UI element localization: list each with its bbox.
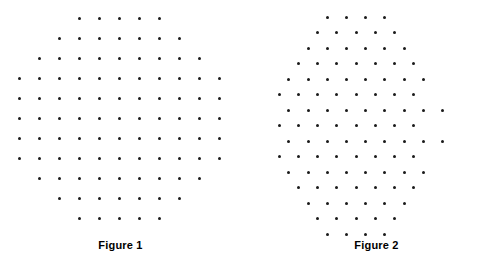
lattice-dot [158,57,161,60]
lattice-dot [412,155,415,158]
lattice-dot [307,47,310,50]
lattice-dot [218,97,221,100]
lattice-dot [58,157,61,160]
lattice-dot [58,197,61,200]
lattice-dot [364,16,367,19]
lattice-dot [393,155,396,158]
lattice-dot [78,197,81,200]
lattice-dot [412,93,415,96]
lattice-dot [316,124,319,127]
lattice-dot [326,140,329,143]
lattice-dot [422,78,425,81]
lattice-dot [441,109,444,112]
lattice-dot [316,155,319,158]
lattice-dot [158,97,161,100]
lattice-dot [326,233,329,236]
lattice-dot [138,37,141,40]
lattice-dot [412,186,415,189]
lattice-dot [118,217,121,220]
lattice-dot [58,177,61,180]
lattice-dot [158,157,161,160]
lattice-dot [138,117,141,120]
lattice-dot [78,77,81,80]
lattice-dot [403,78,406,81]
lattice-dot [138,77,141,80]
lattice-dot [98,177,101,180]
lattice-dot [98,37,101,40]
lattice-dot [364,140,367,143]
lattice-dot [403,140,406,143]
lattice-dot [364,202,367,205]
lattice-dot [326,171,329,174]
lattice-dot [307,171,310,174]
lattice-dot [58,37,61,40]
lattice-dot [98,17,101,20]
lattice-dot [98,217,101,220]
lattice-dot [355,186,358,189]
lattice-dot [98,117,101,120]
lattice-dot [118,117,121,120]
lattice-dot [58,57,61,60]
lattice-dot [198,97,201,100]
lattice-dot [297,186,300,189]
lattice-dot [422,140,425,143]
lattice-dot [198,117,201,120]
lattice-dot [307,109,310,112]
lattice-dot [345,47,348,50]
lattice-dot [364,109,367,112]
lattice-dot [18,117,21,120]
lattice-dot [355,93,358,96]
lattice-dot [98,57,101,60]
lattice-dot [118,157,121,160]
lattice-dot [158,77,161,80]
lattice-dot [393,62,396,65]
lattice-dot [345,233,348,236]
lattice-dot [78,97,81,100]
lattice-dot [316,31,319,34]
lattice-dot [178,157,181,160]
lattice-dot [383,233,386,236]
lattice-dot [118,17,121,20]
lattice-dot [138,137,141,140]
lattice-dot [138,197,141,200]
lattice-dot [218,157,221,160]
lattice-dot [98,157,101,160]
lattice-dot [374,31,377,34]
lattice-dot [118,97,121,100]
lattice-dot [403,109,406,112]
lattice-dot [355,124,358,127]
lattice-dot [38,137,41,140]
lattice-dot [38,177,41,180]
lattice-dot [345,16,348,19]
lattice-dot [374,93,377,96]
lattice-dot [374,155,377,158]
lattice-dot [278,124,281,127]
lattice-dot [138,157,141,160]
lattice-dot [158,177,161,180]
lattice-dot [38,157,41,160]
lattice-dot [374,62,377,65]
lattice-dot [78,137,81,140]
lattice-dot [403,47,406,50]
lattice-dot [297,124,300,127]
lattice-dot [138,57,141,60]
lattice-dot [18,97,21,100]
lattice-dot [118,77,121,80]
lattice-dot [374,124,377,127]
lattice-dot [218,77,221,80]
lattice-dot [178,57,181,60]
lattice-dot [383,202,386,205]
lattice-dot [307,202,310,205]
lattice-dot [58,117,61,120]
lattice-dot [138,17,141,20]
lattice-dot [316,217,319,220]
lattice-dot [345,171,348,174]
lattice-dot [383,47,386,50]
lattice-dot [58,77,61,80]
lattice-dot [355,155,358,158]
lattice-dot [78,17,81,20]
lattice-dot [138,217,141,220]
lattice-dot [38,57,41,60]
lattice-dot [138,97,141,100]
lattice-dot [158,197,161,200]
